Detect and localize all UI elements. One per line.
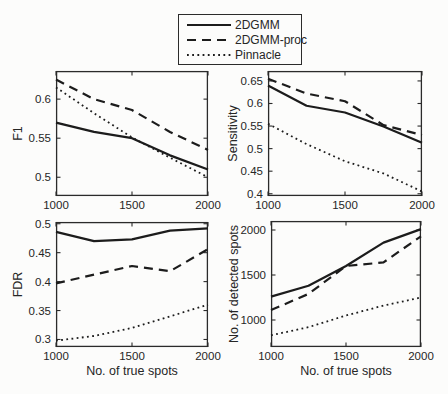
svg-text:0.45: 0.45 — [29, 247, 51, 259]
svg-text:0.55: 0.55 — [29, 132, 51, 144]
solid-line-sample-icon — [186, 20, 232, 30]
series-2dgmm — [268, 85, 422, 142]
series-pinnacle — [56, 305, 208, 341]
svg-text:1500: 1500 — [332, 199, 358, 211]
svg-text:2000: 2000 — [195, 199, 221, 211]
svg-text:1500: 1500 — [240, 269, 266, 281]
svg-text:0.65: 0.65 — [241, 75, 263, 87]
svg-text:2000: 2000 — [195, 350, 221, 362]
svg-text:1000: 1000 — [255, 199, 281, 211]
svg-text:1000: 1000 — [43, 350, 69, 362]
svg-text:Sensitivity: Sensitivity — [226, 105, 240, 162]
svg-text:No. of detected spots: No. of detected spots — [227, 225, 241, 343]
svg-text:2000: 2000 — [240, 224, 266, 236]
svg-text:1500: 1500 — [119, 350, 145, 362]
chart-legend: 2DGMM2DGMM-procPinnacle — [178, 14, 302, 65]
series-2dgmm-proc — [56, 249, 208, 283]
svg-text:FDR: FDR — [11, 272, 25, 298]
svg-text:0.35: 0.35 — [29, 305, 51, 317]
svg-text:0.45: 0.45 — [241, 165, 263, 177]
series-2dgmm — [271, 229, 421, 297]
svg-text:0.4: 0.4 — [35, 276, 52, 288]
svg-text:No. of true spots: No. of true spots — [300, 364, 392, 378]
dashed-line-sample-icon — [186, 35, 232, 45]
svg-text:0.6: 0.6 — [35, 93, 51, 105]
svg-text:1000: 1000 — [258, 350, 284, 362]
subplot-f1: 1000150020000.50.550.6F1 — [56, 71, 208, 196]
svg-text:1500: 1500 — [333, 350, 359, 362]
series-2dgmm-proc — [271, 236, 421, 310]
subplot-detected-spots: 100015002000100015002000No. of true spot… — [271, 221, 421, 347]
figure-canvas: 2DGMM2DGMM-procPinnacle 1000150020000.50… — [0, 0, 448, 394]
svg-text:0.5: 0.5 — [35, 171, 51, 183]
legend-item-pinnacle: Pinnacle — [186, 48, 296, 62]
series-2dgmm-proc — [268, 79, 422, 135]
svg-text:1500: 1500 — [119, 199, 145, 211]
subplot-fdr: 1000150020000.30.350.40.450.5No. of true… — [56, 222, 208, 347]
svg-text:0.55: 0.55 — [241, 120, 263, 132]
legend-item-2dgmm-proc: 2DGMM-proc — [186, 33, 296, 47]
subplot-sensitivity: 1000150020000.40.450.50.550.60.65Sensiti… — [268, 71, 422, 196]
series-pinnacle — [56, 87, 208, 177]
svg-text:F1: F1 — [11, 126, 25, 141]
svg-text:2000: 2000 — [408, 350, 434, 362]
series-pinnacle — [271, 298, 421, 336]
svg-text:0.5: 0.5 — [247, 143, 263, 155]
series-2dgmm — [56, 228, 208, 241]
legend-item-label: 2DGMM-proc — [235, 34, 307, 46]
svg-text:0.3: 0.3 — [35, 333, 51, 345]
series-2dgmm — [56, 123, 208, 170]
dotted-line-sample-icon — [186, 50, 232, 60]
svg-text:0.5: 0.5 — [35, 218, 51, 230]
legend-item-label: 2DGMM — [235, 19, 280, 31]
svg-text:0.6: 0.6 — [247, 97, 263, 109]
svg-text:No. of true spots: No. of true spots — [86, 364, 178, 378]
legend-item-2dgmm: 2DGMM — [186, 18, 296, 32]
svg-text:0.4: 0.4 — [247, 188, 264, 200]
svg-text:2000: 2000 — [409, 199, 435, 211]
legend-item-label: Pinnacle — [235, 49, 281, 61]
svg-text:1000: 1000 — [240, 314, 266, 326]
svg-text:1000: 1000 — [43, 199, 69, 211]
